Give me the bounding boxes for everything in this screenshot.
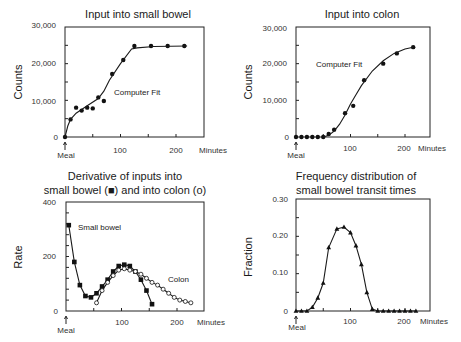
panel2-ytick-10000: 10,000	[263, 96, 288, 105]
panel3-small-bowel-label: Small bowel	[78, 223, 121, 232]
panel3-title-line1: Derivative of inputs into	[68, 170, 182, 182]
data-point-open-circle	[167, 291, 171, 295]
panel1-xtick-100: 100	[113, 146, 127, 155]
panel1-ytick-10000: 10,000	[32, 97, 57, 106]
data-point-circle	[316, 135, 320, 139]
data-point-square	[128, 264, 133, 269]
data-point-open-circle	[122, 267, 126, 271]
data-point-open-circle	[161, 287, 165, 291]
data-point-open-circle	[128, 268, 132, 272]
panel2-xtick-200: 200	[397, 144, 411, 153]
panel-transit-distribution: Frequency distribution of small bowel tr…	[242, 170, 448, 332]
data-point-triangle	[342, 224, 347, 228]
panel4-xtick-100: 100	[343, 317, 357, 326]
data-point-square	[66, 223, 71, 228]
panel3-title-line2: small bowel (■) and into colon (o)	[44, 184, 207, 196]
data-point-square	[122, 262, 127, 267]
data-point-open-circle	[144, 276, 148, 280]
data-point-square	[72, 260, 77, 265]
data-point-square	[139, 277, 144, 282]
data-point-open-circle	[178, 298, 182, 302]
panel4-xlabel: Minutes	[420, 317, 448, 326]
data-point-circle	[305, 135, 309, 139]
panel3-colon-label: Colon	[168, 275, 189, 284]
panel3-xtick-200: 200	[170, 318, 184, 327]
data-point-square	[150, 302, 155, 307]
data-point-square	[111, 269, 116, 274]
panel2-ylabel: Counts	[242, 64, 254, 99]
data-point-open-circle	[139, 272, 143, 276]
data-point-circle	[91, 106, 95, 110]
series-line	[69, 225, 152, 304]
panel4-ytick-020: 0.20	[272, 231, 288, 240]
data-point-open-circle	[183, 299, 187, 303]
panel3-meal-label: Meal	[57, 326, 75, 335]
data-point-open-circle	[150, 280, 154, 284]
meal-arrow-icon	[295, 142, 298, 150]
panel4-title-line2: small bowel transit times	[296, 184, 416, 196]
data-point-square	[144, 288, 149, 293]
panel1-fit-label: Computer Fit	[114, 88, 161, 97]
panel1-ylabel: Counts	[12, 64, 24, 99]
panel4-ytick-0: 0	[284, 307, 289, 316]
data-point-circle	[102, 99, 106, 103]
data-point-circle	[351, 104, 355, 108]
plot-frame	[65, 27, 204, 137]
panel1-ytick-0: 0	[54, 133, 59, 142]
data-point-circle	[299, 135, 303, 139]
data-point-open-circle	[133, 269, 137, 273]
panel1-xtick-200: 200	[169, 146, 183, 155]
data-point-triangle	[354, 243, 359, 247]
panel2-ytick-30000: 30,000	[263, 24, 288, 33]
data-point-open-circle	[156, 283, 160, 287]
panel2-xtick-100: 100	[343, 144, 357, 153]
data-point-open-circle	[189, 301, 193, 305]
series-line	[296, 227, 416, 311]
panel4-ytick-010: 0.10	[272, 268, 288, 277]
panel2-title: Input into colon	[325, 8, 400, 20]
data-point-triangle	[370, 307, 375, 311]
panel3-ytick-0: 0	[54, 307, 59, 316]
panel1-ytick-30000: 30,000	[32, 21, 57, 30]
data-point-open-circle	[117, 268, 121, 272]
data-point-square	[83, 294, 88, 299]
panel1-meal-label: Meal	[57, 151, 75, 160]
data-point-open-circle	[106, 280, 110, 284]
panel2-fit-label: Computer Fit	[316, 60, 363, 69]
panel4-xtick-200: 200	[397, 317, 411, 326]
panel2-plot	[294, 27, 430, 150]
panel3-ylabel: Rate	[12, 245, 24, 268]
panel2-meal-label: Meal	[287, 151, 305, 160]
data-point-circle	[294, 135, 298, 139]
data-point-triangle	[321, 280, 326, 284]
meal-arrow-icon	[65, 316, 68, 324]
panel4-ylabel: Fraction	[242, 237, 254, 277]
data-point-circle	[310, 135, 314, 139]
panel4-ytick-030: 0.30	[272, 195, 288, 204]
data-point-triangle	[326, 245, 331, 249]
panel1-ytick-20000: 20,000	[32, 59, 57, 68]
data-point-open-circle	[172, 295, 176, 299]
panel2-ytick-20000: 20,000	[263, 59, 288, 68]
panel1-xlabel: Minutes	[199, 146, 227, 155]
data-point-circle	[74, 105, 78, 109]
data-point-square	[78, 283, 83, 288]
panel2-ytick-0: 0	[285, 133, 290, 142]
panel4-plot	[294, 199, 430, 324]
panel-derivative: Derivative of inputs into small bowel (■…	[12, 170, 225, 335]
figure: Input into small bowel Counts 30,000 20,…	[0, 0, 461, 342]
data-point-open-circle	[95, 301, 99, 305]
panel3-xtick-100: 100	[115, 318, 129, 327]
plot-frame	[296, 199, 430, 311]
panel2-xlabel: Minutes	[418, 144, 446, 153]
data-point-open-circle	[111, 274, 115, 278]
data-point-triangle	[359, 262, 364, 266]
panel4-title-line1: Frequency distribution of	[296, 170, 417, 182]
data-point-square	[89, 295, 94, 300]
data-point-square	[116, 264, 121, 269]
panel3-ytick-400: 400	[43, 198, 57, 207]
panel1-title: Input into small bowel	[85, 8, 191, 20]
panel3-plot	[65, 202, 205, 324]
data-point-open-circle	[100, 289, 104, 293]
panel3-xlabel: Minutes	[197, 318, 225, 327]
